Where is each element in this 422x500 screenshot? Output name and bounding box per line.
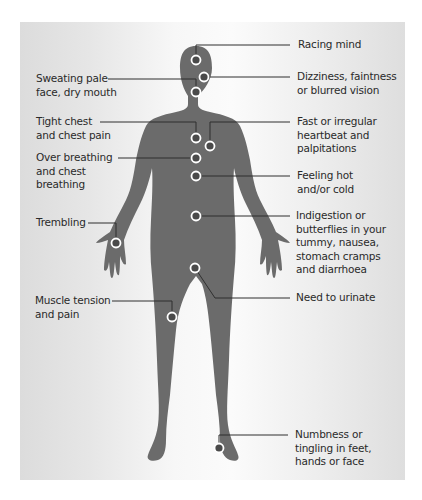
label-sweating: Sweating pale face, dry mouth — [36, 72, 117, 99]
label-muscle-tension: Muscle tension and pain — [35, 294, 111, 321]
label-over-breathing: Over breathing and chest breathing — [36, 151, 112, 192]
marker-tight-chest — [192, 134, 201, 143]
label-feeling-hot: Feeling hot and/or cold — [297, 169, 354, 196]
label-urinate: Need to urinate — [296, 291, 375, 305]
label-racing-mind: Racing mind — [298, 38, 361, 52]
body-silhouette — [96, 46, 290, 461]
label-trembling: Trembling — [36, 216, 86, 230]
label-tight-chest: Tight chest and chest pain — [36, 115, 111, 142]
marker-dizziness — [200, 73, 209, 82]
label-indigestion: Indigestion or butterflies in your tummy… — [296, 209, 386, 277]
label-dizziness: Dizziness, faintness or blurred vision — [297, 70, 397, 97]
marker-muscle-tension — [168, 313, 177, 322]
marker-fast-heartbeat — [206, 142, 215, 151]
label-numbness: Numbness or tingling in feet, hands or f… — [295, 428, 371, 469]
marker-trembling — [112, 239, 121, 248]
label-fast-heartbeat: Fast or irregular heartbeat and palpitat… — [297, 115, 377, 156]
marker-urinate — [191, 264, 200, 273]
marker-feeling-hot — [192, 172, 201, 181]
marker-over-breathing — [192, 154, 201, 163]
marker-indigestion — [192, 212, 201, 221]
marker-racing-mind — [192, 56, 201, 65]
marker-numbness — [215, 444, 224, 453]
marker-sweating — [192, 88, 201, 97]
